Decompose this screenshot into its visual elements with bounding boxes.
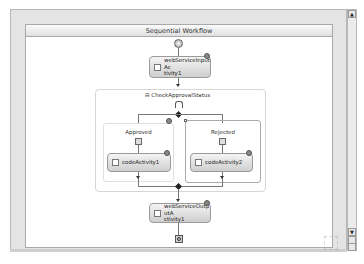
code-activity-1-label: codeActivity1 (122, 159, 159, 166)
code-activity-1[interactable]: codeActivity1 (107, 153, 171, 172)
connector (222, 145, 223, 153)
pan-cursor-watermark-icon (324, 236, 338, 250)
branch-icon (219, 138, 226, 145)
arrow-down-icon (176, 84, 180, 87)
connector (178, 48, 179, 56)
code-activity-2-label: codeActivity2 (205, 159, 242, 166)
branch-line (138, 114, 223, 115)
web-service-output-icon (154, 210, 161, 217)
arrow-down-icon (220, 176, 224, 179)
rejected-branch-label: Rejected (185, 129, 261, 135)
scroll-up-button[interactable]: ▲ (348, 10, 356, 18)
code-activity-icon (112, 159, 119, 166)
workflow-title: Sequential Workflow (25, 24, 333, 37)
start-icon (174, 39, 183, 48)
end-icon (175, 235, 183, 243)
code-activity-2[interactable]: codeActivity2 (190, 153, 253, 172)
pan-icon[interactable] (348, 243, 356, 251)
vertical-scrollbar[interactable] (347, 9, 357, 251)
branch-line (138, 114, 139, 123)
activity-label-line2: ctivity1 (164, 216, 184, 222)
selection-handle[interactable] (184, 119, 187, 122)
web-service-input-activity[interactable]: webServiceInputActivity1 (149, 56, 211, 78)
if-else-icon (175, 101, 183, 108)
connector (222, 172, 223, 186)
if-else-label: CheckApprovalStatus (151, 92, 210, 98)
warning-icon[interactable] (204, 200, 210, 206)
activity-label-line1: webServiceOutputA (164, 203, 209, 216)
scroll-down-button[interactable]: ▼ (348, 228, 356, 236)
connector (138, 172, 139, 186)
arrow-down-icon (176, 199, 180, 202)
connector (178, 189, 179, 199)
connector (138, 145, 139, 153)
warning-icon[interactable] (204, 53, 210, 59)
activity-label-line2: tivity1 (164, 70, 181, 76)
if-else-header: ⊟ CheckApprovalStatus (145, 92, 215, 100)
connector (178, 223, 179, 235)
warning-icon[interactable] (246, 150, 252, 156)
branch-icon (135, 138, 142, 145)
web-service-output-activity[interactable]: webServiceOutputActivity1 (149, 203, 211, 223)
code-activity-icon (195, 159, 202, 166)
designer-bottom-edge (10, 249, 347, 252)
arrow-down-icon (136, 176, 140, 179)
warning-icon[interactable] (164, 150, 170, 156)
web-service-input-icon (154, 64, 161, 71)
approved-branch-label: Approved (103, 129, 174, 135)
collapse-icon[interactable]: ⊟ (145, 92, 150, 98)
activity-label-line1: webServiceInputAc (164, 57, 210, 70)
warning-icon[interactable] (166, 118, 172, 124)
